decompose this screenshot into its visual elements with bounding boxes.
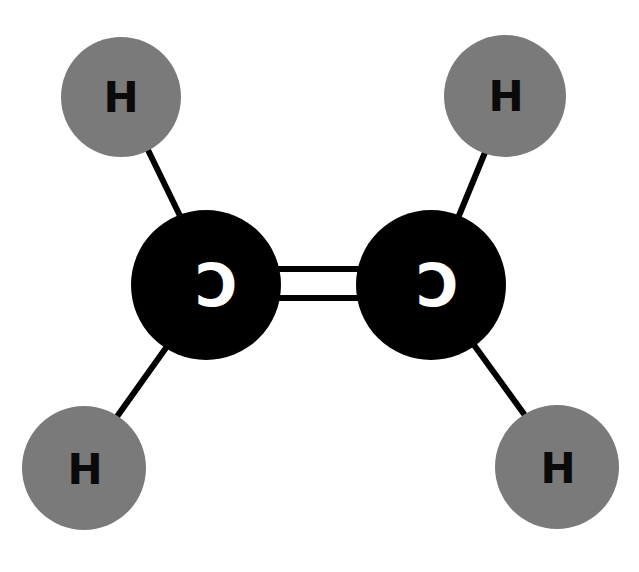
atom-h3: H [22,406,146,530]
atom-label-h2: H [488,72,523,121]
atom-label-h1: H [103,73,138,122]
atom-label-c2: C [416,252,459,320]
atom-label-h4: H [540,444,575,493]
atom-label-h3: H [67,445,102,494]
atom-h4: H [495,405,619,529]
atom-c1: C [131,210,281,360]
ethylene-molecule-diagram: H H H H C C [0,0,639,572]
atom-c2: C [356,210,506,360]
atom-label-c1: C [195,252,238,320]
atom-h1: H [61,37,181,157]
atom-h2: H [444,35,566,157]
